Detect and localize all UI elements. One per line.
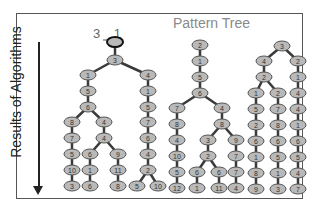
pattern-tree: 3145165847746569410111236851021567488439… [0, 0, 326, 210]
tree-node-label: 4 [146, 151, 150, 158]
tree-node-label: 9 [234, 137, 238, 144]
tree-node-label: 10 [68, 167, 76, 174]
tree-node-label: 1 [276, 170, 280, 177]
tree-node-label: 4 [102, 119, 106, 126]
tree-node-label: 1 [296, 74, 300, 81]
middle-tree: 2156748843910275667121114 [169, 40, 244, 193]
tree-node-label: 2 [198, 42, 202, 49]
tree-node-label: 7 [146, 119, 150, 126]
tree-node-label: 12 [173, 185, 181, 192]
tree-node-label: 2 [146, 167, 150, 174]
tree-node-label: 1 [198, 58, 202, 65]
tree-node-label: 9 [254, 186, 258, 193]
tree-node-label: 7 [70, 135, 74, 142]
tree-node-label: 4 [296, 170, 300, 177]
tree-node-label: 8 [220, 121, 224, 128]
tree-node-label: 6 [146, 135, 150, 142]
tree-node-label: 6 [86, 104, 90, 111]
tree-node-label: 5 [135, 183, 139, 190]
tree-node-label: 1 [195, 185, 199, 192]
tree-node-label: 6 [88, 183, 92, 190]
tree-node-label: 3 [206, 137, 210, 144]
tree-node-label: 2 [262, 74, 266, 81]
tree-node-label: 7 [175, 105, 179, 112]
right-tree: 34221124574281666155814937 [248, 41, 306, 194]
tree-node-label: 2 [276, 90, 280, 97]
tree-node-label: 3 [276, 186, 280, 193]
tree-node-label: 11 [215, 185, 222, 192]
tree-node-label: 4 [296, 106, 300, 113]
tree-node-label: 7 [234, 169, 238, 176]
tree-node-label: 4 [102, 135, 106, 142]
tree-node-label: 5 [296, 154, 300, 161]
tree-node-label: 1 [254, 154, 258, 161]
tree-node-label: 3 [70, 183, 74, 190]
tree-node-label: 10 [173, 153, 181, 160]
tree-node-label: 6 [217, 169, 221, 176]
tree-node-label: 5 [198, 74, 202, 81]
tree-node-label: 8 [175, 121, 179, 128]
tree-node-label: 6 [198, 90, 202, 97]
tree-node-label: 7 [234, 153, 238, 160]
tree-node-label: 1 [296, 122, 300, 129]
tree-node-label: 4 [220, 105, 224, 112]
tree-node-label: 6 [276, 138, 280, 145]
tree-node-label: 5 [146, 104, 150, 111]
tree-node-label: 6 [254, 138, 258, 145]
tree-node-label: 11 [114, 167, 121, 174]
tree-node-label: 7 [276, 106, 280, 113]
tree-node-label: 6 [195, 169, 199, 176]
tree-node-label: 3 [113, 57, 117, 64]
tree-node-label: 4 [146, 72, 150, 79]
tree-node-label: 7 [296, 186, 300, 193]
tree-node-label: 2 [254, 122, 258, 129]
tree-node-label: 2 [206, 153, 210, 160]
tree-node-label: 1 [146, 88, 150, 95]
tree-node-label: 8 [70, 119, 74, 126]
tree-node-label: 5 [175, 169, 179, 176]
tree-node-label: 5 [276, 154, 280, 161]
tree-node-label: 4 [296, 90, 300, 97]
tree-node-label: 6 [296, 138, 300, 145]
tree-node-label: 4 [234, 185, 238, 192]
tree-node-label: 4 [262, 58, 266, 65]
tree-node-label: 10 [154, 183, 162, 190]
tree-node-label: 8 [276, 122, 280, 129]
tree-node-label: 1 [86, 72, 90, 79]
tree-node-label: 6 [88, 151, 92, 158]
tree-node-label: 5 [70, 151, 74, 158]
tree-node-label: 1 [88, 167, 92, 174]
tree-node-label: 5 [254, 106, 258, 113]
tree-node-label: 1 [254, 90, 258, 97]
tree-node [107, 37, 123, 47]
left-tree: 31451658477465694101112368510 [64, 37, 166, 191]
tree-node-label: 5 [86, 88, 90, 95]
tree-node-label: 8 [254, 170, 258, 177]
tree-node-label: 9 [116, 151, 120, 158]
tree-node-label: 3 [280, 43, 284, 50]
tree-node-label: 4 [175, 137, 179, 144]
tree-node-label: 2 [296, 58, 300, 65]
tree-node-label: 8 [116, 183, 120, 190]
